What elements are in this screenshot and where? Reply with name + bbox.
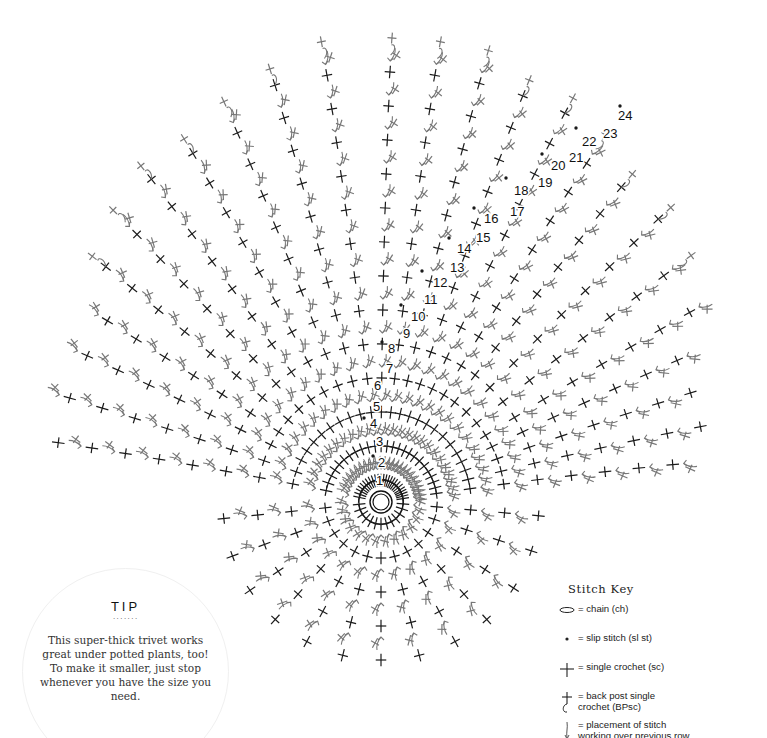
placement-arrow-icon: [304, 192, 310, 206]
single-crochet-icon: [258, 456, 270, 466]
single-crochet-icon: [86, 443, 98, 453]
single-crochet-icon: [271, 297, 280, 308]
placement-arrow-icon: [553, 390, 566, 395]
single-crochet-icon: [295, 404, 304, 413]
placement-arrow-icon: [241, 295, 246, 308]
placement-arrow-icon: [251, 431, 261, 442]
slip-stitch-dot: [574, 126, 577, 129]
placement-arrow-icon: [267, 509, 280, 515]
tip-body: This super-thick trivet works great unde…: [37, 633, 214, 703]
single-crochet-icon: [460, 589, 468, 598]
row-number-label: 12: [433, 275, 447, 290]
single-crochet-icon: [333, 399, 342, 410]
stitch-key-title: Stitch Key: [568, 582, 766, 596]
single-crochet-icon: [429, 483, 441, 493]
placement-arrow-icon: [336, 511, 350, 517]
single-crochet-icon: [582, 158, 591, 168]
placement-arrow-icon: [412, 510, 423, 520]
single-crochet-icon: [320, 485, 332, 495]
placement-arrow-icon: [359, 321, 365, 334]
single-crochet-icon: [474, 455, 485, 464]
placement-arrow-icon: [515, 479, 528, 485]
back-post-hook-icon: [227, 107, 232, 117]
row-number-label: 4: [370, 416, 377, 431]
single-crochet-icon: [285, 506, 298, 516]
row-number-label: 13: [450, 260, 464, 275]
single-crochet-icon: [451, 636, 460, 647]
single-crochet-icon: [578, 398, 589, 408]
single-crochet-icon: [402, 375, 412, 387]
magic-ring-icon: [370, 491, 392, 513]
single-crochet-icon: [423, 528, 434, 537]
single-crochet-icon: [652, 398, 664, 408]
placement-arrow-icon: [524, 407, 537, 412]
single-crochet-icon: [472, 419, 482, 427]
placement-arrow-icon: [441, 468, 454, 473]
single-crochet-icon: [362, 373, 372, 385]
single-crochet-icon: [448, 282, 458, 294]
placement-arrow-icon: [670, 320, 683, 325]
back-post-sc-icon: [525, 75, 533, 85]
slip-stitch-dot: [504, 176, 507, 179]
single-crochet-icon: [694, 421, 706, 431]
single-crochet-icon: [351, 447, 360, 458]
placement-arrow-icon: [129, 371, 139, 382]
single-crochet-icon: [340, 455, 348, 464]
placement-arrow-icon: [565, 348, 578, 353]
single-crochet-icon: [474, 331, 483, 342]
placement-arrow-icon: [233, 513, 246, 519]
single-crochet-icon: [442, 353, 451, 364]
single-crochet-icon: [307, 395, 316, 405]
placement-arrow-icon: [346, 357, 352, 371]
placement-arrow-icon: [284, 558, 297, 563]
placement-arrow-icon: [113, 407, 124, 417]
single-crochet-icon: [294, 589, 302, 598]
single-crochet-icon: [354, 305, 364, 317]
single-crochet-icon: [217, 390, 228, 399]
single-crochet-icon: [427, 477, 439, 487]
single-crochet-icon: [226, 329, 235, 338]
key-item-back-post-sc: = back post single crochet (BPsc): [556, 691, 766, 713]
single-crochet-icon: [471, 218, 481, 230]
single-crochet-icon: [561, 450, 573, 460]
single-crochet-icon: [232, 371, 242, 379]
placement-arrow-icon: [295, 159, 301, 173]
single-crochet-icon: [419, 576, 428, 587]
single-crochet-icon: [495, 466, 507, 476]
single-crochet-icon: [385, 66, 395, 79]
single-crochet-icon: [330, 466, 340, 475]
key-label: = slip stitch (sl st): [578, 633, 652, 644]
placement-arrow-icon: [256, 577, 269, 582]
placement-arrow-icon: [512, 465, 526, 471]
single-crochet-icon: [357, 444, 367, 456]
single-crochet-icon: [188, 371, 199, 380]
single-crochet-icon: [485, 383, 494, 392]
single-crochet-icon: [362, 550, 372, 562]
single-crochet-icon: [491, 343, 499, 353]
single-crochet-icon: [498, 398, 508, 406]
single-crochet-icon: [265, 440, 276, 449]
single-crochet-icon: [112, 365, 123, 375]
slip-stitch-dot: [362, 416, 365, 419]
single-crochet-icon: [179, 279, 188, 288]
single-crochet-icon: [296, 285, 306, 297]
placement-arrow-icon: [308, 621, 319, 631]
placement-arrow-icon: [210, 439, 221, 449]
placement-arrow-icon: [330, 362, 336, 376]
placement-arrow-icon: [432, 454, 445, 460]
slip-stitch-dot: [472, 206, 475, 209]
placement-arrow-icon: [98, 356, 108, 366]
placement-arrow-icon: [618, 306, 631, 311]
placement-arrow-icon: [221, 267, 226, 280]
single-crochet-icon: [614, 356, 625, 365]
single-crochet-icon: [238, 237, 247, 248]
single-crochet-icon: [249, 354, 258, 363]
row-number-label: 19: [538, 175, 552, 190]
single-crochet-icon: [245, 586, 255, 595]
single-crochet-icon: [345, 450, 354, 460]
single-crochet-icon: [339, 539, 347, 548]
single-crochet-icon: [403, 546, 412, 557]
placement-arrow-icon: [321, 258, 327, 272]
placement-arrow-icon: [592, 327, 605, 332]
single-crochet-icon: [52, 437, 64, 447]
